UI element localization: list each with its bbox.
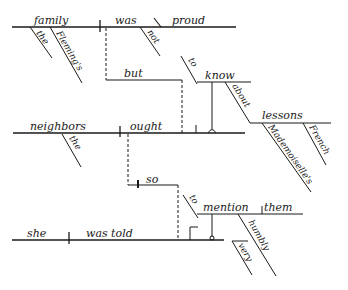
word-french: French bbox=[307, 122, 332, 156]
infinitive-2: to mention them humbly very bbox=[183, 193, 303, 276]
conjunction-but: but bbox=[106, 28, 182, 133]
word-neighbors: neighbors bbox=[30, 120, 86, 133]
word-but: but bbox=[124, 67, 143, 80]
word-she: she bbox=[27, 227, 47, 240]
word-flemings: Fleming's bbox=[54, 28, 86, 73]
word-family: family bbox=[33, 14, 69, 27]
word-mention: mention bbox=[203, 201, 249, 214]
word-ought: ought bbox=[130, 120, 163, 133]
clause-3: she was told bbox=[12, 227, 224, 244]
word-the-2: the bbox=[67, 134, 83, 152]
predicate-adjective-divider bbox=[154, 18, 161, 27]
sentence-diagram: family was proud the Fleming's not but t… bbox=[0, 0, 348, 290]
word-proud: proud bbox=[172, 14, 205, 27]
word-not: not bbox=[145, 28, 162, 46]
clause-2: neighbors ought the bbox=[13, 120, 245, 167]
word-know: know bbox=[205, 69, 235, 82]
word-was-told: was told bbox=[86, 227, 133, 240]
word-them: them bbox=[264, 201, 292, 214]
word-was: was bbox=[115, 14, 137, 27]
word-lessons: lessons bbox=[262, 109, 303, 122]
infinitive-1: to know about lessons Mademoiselle's Fre… bbox=[181, 56, 332, 192]
word-the-1: the bbox=[34, 28, 51, 46]
word-to-1: to bbox=[186, 56, 200, 69]
conjunction-so: so bbox=[128, 134, 178, 240]
word-so: so bbox=[146, 173, 159, 186]
object-bracket bbox=[190, 227, 198, 240]
